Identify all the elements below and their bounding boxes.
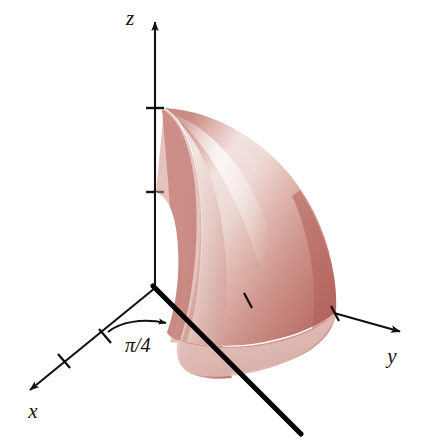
x-axis-label: x	[27, 399, 38, 423]
z-axis-label: z	[125, 6, 134, 30]
figure-container: z	[0, 0, 436, 440]
figure-svg: z	[0, 0, 436, 440]
y-axis-line	[334, 313, 400, 332]
spherical-wedge-surface	[156, 108, 336, 379]
angle-label: π/4	[125, 334, 151, 356]
y-axis-label: y	[385, 344, 397, 368]
